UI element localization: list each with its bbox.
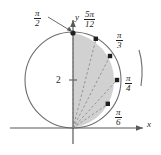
fraction-pi-over-2: π 2 (34, 9, 41, 29)
fraction-pi-over-3: π 3 (116, 31, 123, 51)
fraction-numerator: π (34, 9, 41, 18)
pi-over-2-leader-arrowhead (67, 27, 73, 32)
point-pi-over-4 (115, 78, 119, 82)
fraction-denominator: 12 (84, 19, 95, 29)
fraction-numerator: π (115, 108, 122, 117)
fraction-denominator: 6 (115, 117, 122, 127)
x-axis-arrowhead (136, 125, 143, 131)
angle-label-5pi-over-12: 5π 12 (84, 10, 95, 30)
pi-over-2-leader-line (48, 17, 71, 31)
fraction-pi-over-6: π 6 (115, 108, 122, 128)
point-5pi-over-12 (94, 37, 98, 41)
angle-label-pi-over-4: π 4 (125, 74, 132, 94)
fraction-denominator: 4 (125, 83, 132, 93)
point-pi-over-3 (108, 54, 112, 58)
angle-label-pi-over-2: π 2 (34, 9, 41, 29)
polar-figure: π 2 5π 12 π 3 π 4 π 6 y x 2 (0, 0, 161, 155)
point-pi-over-6 (106, 102, 110, 106)
figure-canvas (0, 0, 161, 155)
x-axis-label: x (147, 120, 151, 129)
fraction-numerator: 5π (84, 10, 95, 19)
fraction-denominator: 3 (116, 40, 123, 50)
fraction-numerator: π (116, 31, 123, 40)
y-axis-label: y (75, 13, 79, 22)
right-side-arc-mark (139, 50, 142, 86)
fraction-5pi-over-12: 5π 12 (84, 10, 95, 30)
angle-label-pi-over-3: π 3 (116, 31, 123, 51)
fraction-denominator: 2 (34, 18, 41, 28)
angle-label-pi-over-6: π 6 (115, 108, 122, 128)
y-tick-label-2: 2 (56, 76, 61, 86)
fraction-numerator: π (125, 74, 132, 83)
fraction-pi-over-4: π 4 (125, 74, 132, 94)
